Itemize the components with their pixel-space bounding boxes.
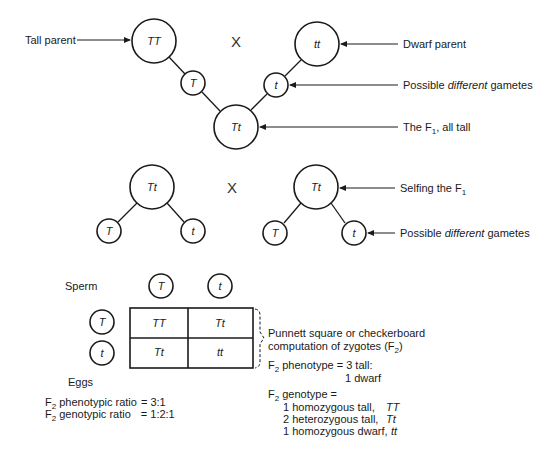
eggs-label: Eggs	[68, 376, 94, 388]
genotypic-ratio: F2 genotypic ratio= 1:2:1	[45, 408, 175, 423]
tall-parent-genotype: TT	[147, 35, 162, 47]
punnett-cell: TT	[152, 317, 167, 329]
genotype-row-value: TT	[386, 401, 401, 413]
f1-genotype: Tt	[231, 121, 242, 133]
cross-symbol: X	[231, 33, 241, 50]
gametes-label: Possible different gametes	[400, 227, 530, 239]
genotype-row-value: Tt	[386, 413, 397, 425]
genotype-row: 1 homozygous tall,	[283, 401, 375, 413]
genotype-row-value: tt	[391, 425, 398, 437]
dwarf-parent-label: Dwarf parent	[403, 38, 466, 50]
connector-line	[118, 203, 137, 222]
f1-selfing-cross: Tt X Tt T t T t Selfing the F1 Possible …	[97, 165, 530, 245]
punnett-caption-line1: Punnett square or checkerboard	[268, 327, 425, 339]
f1-label: The F1, all tall	[403, 121, 470, 136]
f2-ratios: F2 phenotypic ratio= 3:1 F2 genotypic ra…	[45, 396, 175, 423]
dwarf-parent-genotype: tt	[314, 38, 321, 50]
connector-line	[169, 57, 185, 74]
f2-results: F2 phenotype = 3 tall: 1 dwarf F2 genoty…	[268, 359, 401, 437]
connector-line	[285, 60, 301, 76]
connector-line	[202, 92, 220, 111]
connector-line	[251, 94, 267, 110]
selfing-label: Selfing the F1	[400, 182, 467, 197]
connector-line	[331, 203, 345, 223]
connector-line	[167, 203, 184, 222]
genotype-row: 2 heterozygous tall,	[283, 413, 378, 425]
cross-symbol: X	[227, 179, 237, 196]
gametes-label: Possible different gametes	[403, 79, 533, 91]
parental-cross: TT X tt T t Tt Tall parent Dwarf parent …	[25, 19, 533, 149]
f1-left-genotype: Tt	[147, 181, 158, 193]
punnett-caption-line2: computation of zygotes (F2)	[268, 340, 403, 355]
monohybrid-cross-diagram: TT X tt T t Tt Tall parent Dwarf parent …	[0, 0, 548, 465]
sperm-label: Sperm	[65, 280, 97, 292]
punnett-cell: tt	[217, 346, 224, 358]
punnett-cell: Tt	[215, 317, 226, 329]
tall-parent-label: Tall parent	[25, 34, 76, 46]
punnett-cell: Tt	[154, 346, 165, 358]
genotype-row: 1 homozygous dwarf,	[283, 425, 388, 437]
f1-right-genotype: Tt	[311, 181, 322, 193]
brace-icon	[255, 309, 264, 368]
f2-phenotype-line2: 1 dwarf	[345, 372, 382, 384]
connector-line	[284, 203, 301, 223]
